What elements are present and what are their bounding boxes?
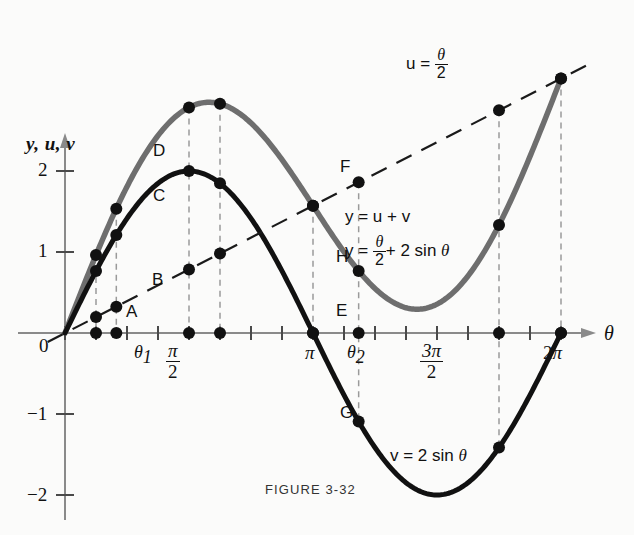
x-tick-label-theta2: θ2 (347, 343, 365, 366)
y-tick-label-2: 2 (38, 160, 48, 179)
y-tick-label-neg1: −1 (27, 404, 47, 423)
x-axis-title: θ (604, 323, 614, 343)
x-tick-label-pi-over-2: π2 (166, 341, 180, 382)
x-tick-label-pi: π (305, 343, 315, 362)
y-tick-label-neg2: −2 (27, 485, 47, 504)
figure-caption: FIGURE 3-32 (265, 483, 356, 496)
vertical-guide-lines (96, 79, 561, 448)
equation-y-sum: y = u + v (345, 208, 410, 225)
point-label-A: A (126, 303, 137, 320)
origin-label: 0 (39, 336, 49, 355)
equation-y-expanded: y = θ2+ 2 sin θ (345, 234, 449, 268)
x-tick-label-3pi-over-2: 3π2 (420, 341, 443, 382)
y-tick-label-1: 1 (38, 241, 48, 260)
equation-v-curve: v = 2 sin θ (390, 447, 467, 464)
figure-canvas (0, 0, 634, 535)
point-label-C: C (153, 187, 165, 204)
point-label-G: G (340, 404, 353, 421)
point-label-B: B (152, 271, 163, 288)
x-tick-label-theta1: θ1 (134, 343, 152, 366)
x-tick-label-2pi: 2π (543, 343, 562, 362)
point-label-D: D (153, 142, 165, 159)
point-label-E: E (336, 302, 347, 319)
equation-u-line: u = θ2 (406, 47, 448, 81)
point-label-F: F (340, 158, 350, 175)
x-axis-arrow (581, 328, 596, 338)
y-axis-title: y, u, v (26, 134, 75, 153)
